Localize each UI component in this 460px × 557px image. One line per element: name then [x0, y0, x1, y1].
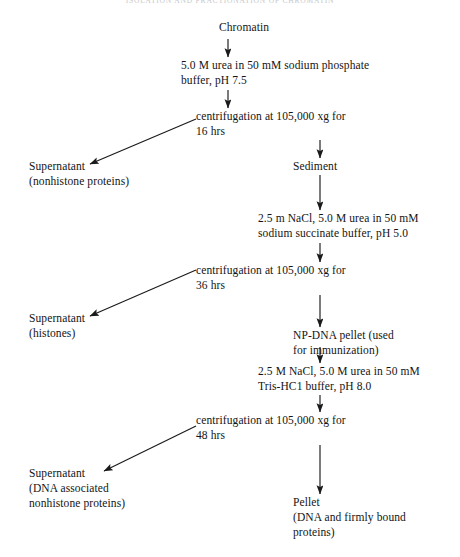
node-centrifugation-1: centrifugation at 105,000 xg for 16 hrs	[196, 109, 346, 139]
node-buffer-step-2: 2.5 m NaCl, 5.0 M urea in 50 mM sodium s…	[258, 211, 419, 241]
node-supernatant-3: Supernatant (DNA associated nonhistone p…	[29, 466, 125, 511]
node-supernatant-2: Supernatant (histones)	[29, 311, 85, 341]
node-centrifugation-3: centrifugation at 105,000 xg for 48 hrs	[196, 413, 346, 443]
flowchart-figure: ISOLATION AND FRACTIONATION OF CHROMATIN…	[0, 0, 460, 557]
node-pellet: Pellet (DNA and firmly bound proteins)	[293, 495, 406, 540]
node-chromatin: Chromatin	[219, 20, 269, 35]
node-centrifugation-2: centrifugation at 105,000 xg for 36 hrs	[196, 263, 346, 293]
node-buffer-step-3: 2.5 M NaCl, 5.0 M urea in 50 mM Tris-HC1…	[258, 364, 420, 394]
node-supernatant-1: Supernatant (nonhistone proteins)	[29, 159, 129, 189]
node-sediment: Sediment	[293, 159, 337, 174]
node-np-dna-pellet: NP-DNA pellet (used for immunization)	[293, 328, 394, 358]
node-buffer-step-1: 5.0 M urea in 50 mM sodium phosphate buf…	[181, 58, 369, 88]
